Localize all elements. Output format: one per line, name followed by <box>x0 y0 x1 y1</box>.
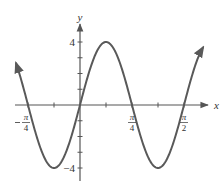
y-axis-label: y <box>77 11 83 23</box>
x-tick-label-denominator: 2 <box>182 123 187 133</box>
sine-graph: xyπ4π4π24−4 <box>0 0 223 194</box>
x-axis-label: x <box>213 99 219 111</box>
x-tick-label-denominator: 4 <box>130 123 135 133</box>
labels: xyπ4π4π24−4 <box>15 11 219 174</box>
y-tick-label: 4 <box>70 36 76 48</box>
x-tick-label-numerator: π <box>24 112 29 122</box>
x-tick-label-numerator: π <box>182 112 187 122</box>
x-tick-label-numerator: π <box>130 112 135 122</box>
x-tick-label-denominator: 4 <box>24 123 29 133</box>
y-tick-label: −4 <box>63 162 75 174</box>
